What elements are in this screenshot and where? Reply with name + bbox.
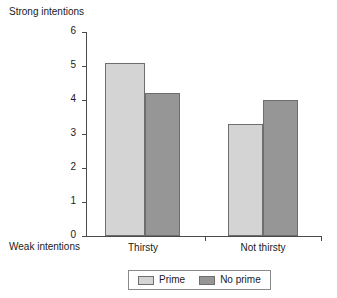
legend: Prime No prime	[128, 270, 271, 290]
legend-swatch-no-prime	[199, 276, 215, 285]
bar-thirsty-prime	[105, 63, 145, 236]
y-tick-label-3: 3	[70, 127, 76, 139]
y-tick-label-4: 4	[70, 93, 76, 105]
x-axis-line	[86, 236, 322, 237]
legend-label-prime: Prime	[159, 274, 185, 286]
category-label-thirsty: Thirsty	[128, 242, 158, 254]
plot-area: 6 5 4 3 2 1 0 Thirsty Not thirsty	[86, 32, 322, 236]
bar-chart-figure: Strong intentions Weak intentions 6 5 4 …	[0, 0, 337, 298]
y-tick-0: 0	[82, 236, 86, 237]
axis-bottom-label: Weak intentions	[9, 241, 80, 253]
y-tick-label-1: 1	[70, 195, 76, 207]
y-axis-line	[86, 32, 87, 237]
y-tick-4: 4	[82, 100, 86, 101]
y-tick-label-2: 2	[70, 161, 76, 173]
y-tick-2: 2	[82, 168, 86, 169]
y-tick-1: 1	[82, 202, 86, 203]
y-tick-6: 6	[82, 32, 86, 33]
bar-thirsty-no-prime	[145, 93, 180, 236]
y-tick-3: 3	[82, 134, 86, 135]
legend-item-prime: Prime	[138, 274, 185, 286]
axis-top-label: Strong intentions	[9, 6, 84, 18]
legend-label-no-prime: No prime	[220, 274, 261, 286]
y-tick-label-6: 6	[70, 25, 76, 37]
legend-item-no-prime: No prime	[199, 274, 261, 286]
y-tick-label-0: 0	[70, 229, 76, 241]
y-tick-5: 5	[82, 66, 86, 67]
y-tick-label-5: 5	[70, 59, 76, 71]
bar-not-thirsty-prime	[228, 124, 263, 236]
category-label-not-thirsty: Not thirsty	[240, 242, 285, 254]
legend-swatch-prime	[138, 276, 154, 285]
x-separator-tick-mid	[205, 236, 206, 241]
x-separator-tick-end	[321, 236, 322, 241]
bar-not-thirsty-no-prime	[263, 100, 298, 236]
